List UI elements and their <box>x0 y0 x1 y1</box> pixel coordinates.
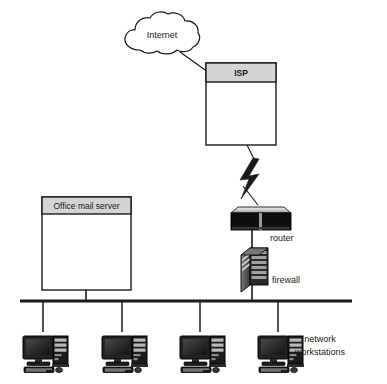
router-top <box>231 207 291 213</box>
mail-server-node[interactable]: Office mail server <box>42 197 131 290</box>
network-diagram: Internet ISP router <box>0 0 387 384</box>
connection-isp-to-router <box>240 145 259 205</box>
firewall-label: firewall <box>272 275 300 285</box>
internet-cloud: Internet <box>125 12 200 54</box>
workstations-label-line1: network <box>304 334 336 344</box>
workstation-icon[interactable] <box>102 336 148 373</box>
firewall-node[interactable]: firewall <box>241 248 300 292</box>
router-node[interactable]: router <box>231 207 294 243</box>
router-label: router <box>270 233 294 243</box>
isp-node[interactable]: ISP <box>206 63 276 145</box>
diagram-canvas: Internet ISP router <box>0 0 387 384</box>
workstation-icon[interactable] <box>23 336 69 373</box>
connection-cloud-to-isp <box>180 52 208 72</box>
mail-server-label: Office mail server <box>54 201 120 211</box>
isp-label: ISP <box>234 68 248 78</box>
workstation-icon[interactable] <box>180 336 226 373</box>
workstation-group <box>23 336 304 373</box>
workstations-label-line2: workstations <box>294 347 346 357</box>
lightning-bolt-icon <box>240 158 259 199</box>
cloud-label: Internet <box>147 30 178 40</box>
workstation-drop-lines <box>43 301 278 332</box>
